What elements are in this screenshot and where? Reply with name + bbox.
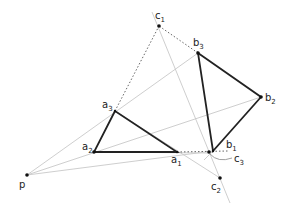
point-c3 <box>207 150 211 154</box>
label-c2: c2 <box>211 181 221 195</box>
dotted-a1-c3 <box>177 151 228 152</box>
point-a2 <box>92 150 96 154</box>
construction-lines <box>27 12 261 203</box>
line-c1-c2-axis <box>152 12 230 203</box>
triangle-b <box>198 53 261 151</box>
point-b3 <box>196 51 200 55</box>
point-b1 <box>212 150 214 152</box>
point-a1 <box>176 151 178 153</box>
label-a2: a2 <box>82 141 93 155</box>
labels: p a1 a2 a3 b1 b2 b3 c1 c2 c3 <box>19 10 276 195</box>
label-b2: b2 <box>265 92 276 106</box>
triangle-a <box>94 111 177 152</box>
desargues-diagram: p a1 a2 a3 b1 b2 b3 c1 c2 c3 <box>0 0 290 210</box>
label-b3: b3 <box>193 37 204 51</box>
label-a1: a1 <box>171 154 182 168</box>
label-c3: c3 <box>234 153 244 167</box>
dotted-a3-c1 <box>115 26 159 111</box>
point-a3 <box>114 110 116 112</box>
point-c1 <box>157 24 161 28</box>
point-b2 <box>259 95 263 99</box>
points <box>25 24 263 180</box>
point-c2 <box>218 176 222 180</box>
label-b1: b1 <box>226 139 237 153</box>
c3-pointer <box>210 154 232 160</box>
point-p <box>25 173 29 177</box>
label-p: p <box>19 179 25 190</box>
label-a3: a3 <box>102 99 113 113</box>
